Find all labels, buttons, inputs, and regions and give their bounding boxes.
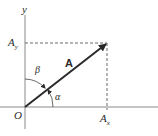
y-axis-label: y: [22, 4, 27, 15]
vector-a-arrow: [25, 44, 106, 107]
ax-label: Ax: [100, 113, 110, 127]
ay-label-main: A: [8, 36, 15, 48]
alpha-label: α: [55, 92, 60, 102]
beta-angle-arc: [25, 79, 45, 88]
ay-label: Ay: [8, 37, 18, 51]
vector-a-label: A: [65, 58, 73, 69]
ax-label-main: A: [100, 112, 107, 124]
ay-label-sub: y: [15, 43, 18, 51]
origin-label: O: [14, 110, 22, 121]
alpha-angle-arc: [48, 90, 53, 107]
vector-components-diagram: [0, 0, 158, 136]
ax-label-sub: x: [107, 119, 110, 127]
beta-label: β: [35, 65, 40, 75]
